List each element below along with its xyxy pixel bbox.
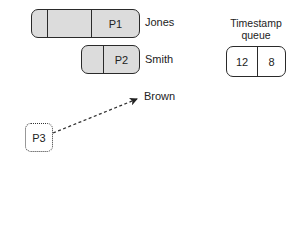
target-brown: Brown — [144, 90, 175, 102]
process-p3-pending: P3 — [25, 123, 53, 152]
